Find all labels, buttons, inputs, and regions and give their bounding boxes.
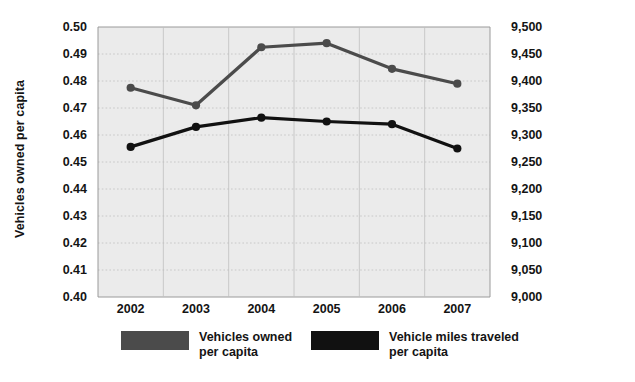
x-axis-tick-label: 2006 [378, 303, 406, 316]
x-axis-tick-label: 2002 [117, 303, 145, 316]
data-point [257, 114, 265, 122]
data-point [192, 101, 200, 109]
line-chart: Vehicles owned per capita Annual vehicle… [0, 0, 635, 382]
x-axis-tick-label: 2004 [247, 303, 275, 316]
data-point [453, 144, 461, 152]
data-point [388, 120, 396, 128]
legend-label-vehicle-miles-traveled: Vehicle miles traveled per capita [389, 330, 519, 360]
legend-label-vehicles-owned: Vehicles owned per capita [199, 330, 292, 360]
data-point [192, 123, 200, 131]
data-point [127, 143, 135, 151]
plot-area [98, 27, 490, 297]
x-axis-tick-label: 2007 [443, 303, 471, 316]
legend-item-vehicles-owned: Vehicles owned per capita [121, 330, 292, 360]
data-point [388, 65, 396, 73]
x-axis-tick-label: 2003 [182, 303, 210, 316]
plot-svg [98, 27, 490, 297]
x-axis-tick-label: 2005 [313, 303, 341, 316]
data-point [453, 80, 461, 88]
legend-item-vehicle-miles-traveled: Vehicle miles traveled per capita [311, 330, 519, 360]
data-point [323, 117, 331, 125]
data-point [257, 43, 265, 51]
data-point [323, 39, 331, 47]
chart-legend: Vehicles owned per capita Vehicle miles … [0, 330, 635, 370]
legend-swatch-vehicles-owned [121, 331, 189, 350]
data-point [127, 84, 135, 92]
legend-swatch-vehicle-miles-traveled [311, 331, 379, 350]
